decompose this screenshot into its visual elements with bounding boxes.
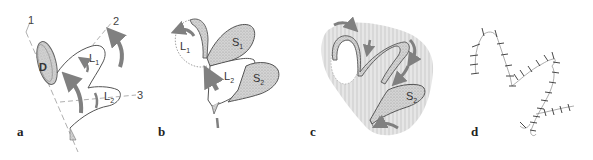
chain-path — [475, 32, 574, 136]
panel-label-b: b — [158, 124, 165, 139]
axis-line-2 — [92, 22, 112, 46]
panel-c: S2 c — [310, 22, 433, 139]
panel-d: d — [470, 28, 574, 139]
panel-label-a: a — [17, 124, 24, 139]
lobe-L1-label: L1 — [180, 40, 190, 54]
disk-label: D — [39, 61, 47, 73]
arrow-icon — [70, 80, 81, 113]
lobe-L1-label: L1 — [89, 52, 99, 66]
arrow-icon — [179, 29, 194, 36]
panel-b: L1 S1 L2 S2 b — [158, 19, 279, 139]
panel-a: 1 D 2 3 L1 L2 a — [17, 14, 143, 152]
disk-D — [33, 39, 61, 86]
panel-label-c: c — [310, 124, 316, 139]
figure-canvas: 1 D 2 3 L1 L2 a — [0, 0, 593, 160]
panel-label-d: d — [471, 124, 479, 139]
axis-label-2: 2 — [113, 15, 119, 27]
arrow-icon — [84, 61, 88, 72]
band-L1 — [190, 19, 208, 58]
lobe-L2-label: L2 — [104, 90, 114, 104]
axis-label-3: 3 — [137, 89, 143, 101]
arrow-icon — [114, 36, 122, 67]
arrow-icon — [95, 93, 97, 108]
axis-label-1: 1 — [28, 14, 34, 26]
